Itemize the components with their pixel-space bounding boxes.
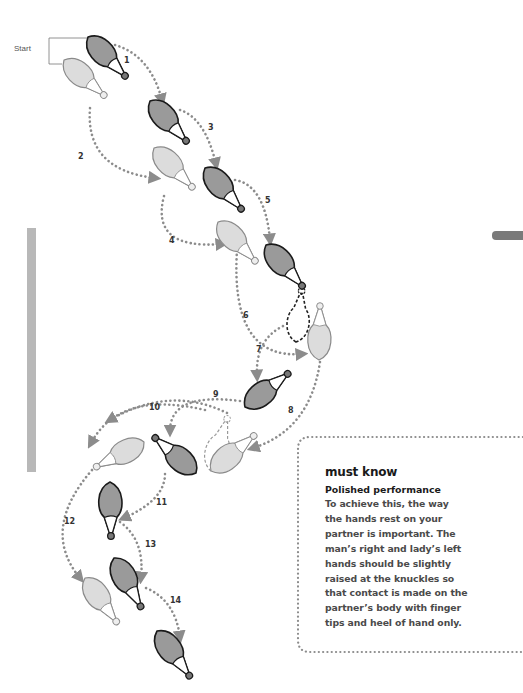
step-path-path-9b: [110, 401, 227, 420]
step-number-12: 12: [64, 517, 75, 526]
man-foot-icon: [147, 624, 200, 685]
man-foot-icon: [257, 237, 313, 296]
step-path-path-10: [91, 405, 205, 443]
step-number-1: 1: [124, 56, 130, 65]
step-number-9: 9: [213, 390, 219, 399]
step-number-14: 14: [170, 596, 182, 605]
man-foot-icon: [141, 93, 196, 151]
man-foot-icon: [196, 160, 252, 219]
must-know-box: must know Polished performance To achiev…: [325, 465, 523, 631]
lady-foot-icon: [88, 432, 149, 478]
step-number-10: 10: [149, 403, 161, 412]
step-number-3: 3: [208, 123, 214, 132]
lady-foot-icon: [146, 140, 203, 197]
lady-foot-icon: [307, 302, 331, 360]
step-number-6: 6: [243, 311, 249, 320]
step-number-11: 11: [156, 498, 168, 507]
info-body-line: partner is important. The: [325, 527, 523, 542]
info-body-line: tips and heel of hand only.: [325, 616, 523, 631]
step-numbers: 1234567891011121314: [64, 56, 294, 605]
info-body-line: partner’s body with finger: [325, 601, 523, 616]
info-body: To achieve this, the waythe hands rest o…: [325, 497, 523, 631]
info-subtitle: Polished performance: [325, 483, 523, 497]
info-body-line: man’s right and lady’s left: [325, 542, 523, 557]
step-number-4: 4: [169, 236, 175, 245]
info-title: must know: [325, 465, 523, 479]
info-body-line: To achieve this, the way: [325, 497, 523, 512]
step-number-2: 2: [78, 152, 84, 161]
info-body-line: the hands rest on your: [325, 512, 523, 527]
step-number-8: 8: [288, 406, 294, 415]
info-body-line: that contact is made on the: [325, 586, 523, 601]
lady-foot-icon: [203, 425, 263, 480]
step-number-7: 7: [256, 345, 262, 354]
step-path-path-2: [90, 108, 155, 178]
footprints: [56, 29, 331, 685]
info-body-line: hands should be slightly: [325, 557, 523, 572]
lady-foot-icon: [210, 214, 266, 271]
man-foot-icon: [98, 482, 122, 540]
step-number-13: 13: [145, 540, 156, 549]
step-path-path-11: [124, 474, 165, 518]
step-number-5: 5: [265, 196, 271, 205]
info-body-line: raised at the knuckles so: [325, 572, 523, 587]
step-paths: [63, 45, 320, 637]
man-foot-icon: [145, 427, 203, 482]
